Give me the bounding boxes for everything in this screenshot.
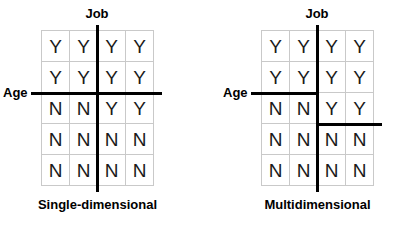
panel-single-dimensional: Job Age YYYYYYYYNNYYNNNNNNNN Single-dime… — [0, 0, 200, 228]
grid-cell: N — [318, 124, 346, 155]
left-axis-label-age: Age — [223, 86, 248, 100]
grid-cell: N — [42, 155, 70, 186]
grid-cell: Y — [318, 31, 346, 62]
age-split-horizontal-line-left — [251, 92, 319, 95]
grid-cell: N — [346, 124, 374, 155]
grid-cell: N — [290, 124, 318, 155]
grid-cell: Y — [42, 62, 70, 93]
grid-cell: Y — [290, 62, 318, 93]
grid-cell: N — [70, 155, 98, 186]
grid-cell: N — [126, 124, 154, 155]
grid-cell: Y — [346, 62, 374, 93]
grid-cell: Y — [346, 31, 374, 62]
grid-cell: N — [70, 93, 98, 124]
grid-cell: Y — [262, 62, 290, 93]
grid-cell: Y — [318, 93, 346, 124]
grid-cell: N — [42, 93, 70, 124]
age-split-horizontal-line — [31, 92, 162, 95]
grid-cell: N — [318, 155, 346, 186]
grid-cell: Y — [290, 31, 318, 62]
grid-cell: N — [42, 124, 70, 155]
grid-cell: N — [262, 124, 290, 155]
panel-caption-multidimensional: Multidimensional — [220, 197, 400, 213]
grid-cell: N — [346, 155, 374, 186]
grid-cell: Y — [262, 31, 290, 62]
top-axis-label-job: Job — [41, 6, 153, 22]
grid-cell: Y — [126, 62, 154, 93]
grid-cell: N — [262, 93, 290, 124]
panel-multidimensional: Job Age YYYYYYYYNNYYNNNNNNNN Multidimens… — [220, 0, 400, 228]
grid-cell: Y — [98, 93, 126, 124]
age-split-horizontal-line-right — [316, 123, 382, 126]
grid-cell: N — [98, 124, 126, 155]
grid-cell: N — [290, 93, 318, 124]
grid-cell: N — [262, 155, 290, 186]
grid-cell: N — [290, 155, 318, 186]
grid-cell: Y — [318, 62, 346, 93]
panel-caption-single-dimensional: Single-dimensional — [0, 197, 195, 213]
grid-cell: Y — [98, 62, 126, 93]
left-axis-label-age: Age — [3, 86, 28, 100]
grid-cell: N — [70, 124, 98, 155]
grid-cell: N — [98, 155, 126, 186]
grid-cell: Y — [70, 62, 98, 93]
grid-cell: Y — [346, 93, 374, 124]
grid-cell: Y — [126, 31, 154, 62]
grid-cell: Y — [126, 93, 154, 124]
job-split-vertical-line — [96, 25, 99, 192]
grid-cell: Y — [98, 31, 126, 62]
top-axis-label-job: Job — [261, 6, 373, 22]
job-split-vertical-line — [316, 25, 319, 192]
grid-cell: N — [126, 155, 154, 186]
grid-cell: Y — [42, 31, 70, 62]
grid-cell: Y — [70, 31, 98, 62]
